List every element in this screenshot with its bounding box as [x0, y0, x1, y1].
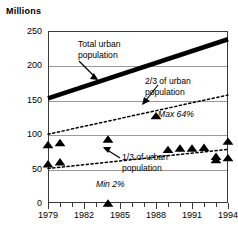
annotation-total-urban-population: Total urban population: [78, 39, 121, 60]
x-tick-1985: [120, 203, 121, 209]
x-tick-1981: [72, 203, 73, 207]
annotation-total-line2: population: [78, 50, 118, 60]
gridline-100: [49, 135, 227, 136]
x-tick-1980: [60, 203, 61, 207]
x-tick-label-1991: 1991: [175, 210, 209, 220]
y-tick-label-0: 0: [12, 198, 42, 208]
y-tick-label-50: 50: [12, 164, 42, 174]
x-tick-1982: [84, 203, 85, 209]
x-tick-1984: [108, 203, 109, 207]
x-tick-1983: [96, 203, 97, 207]
x-tick-1992: [204, 203, 205, 207]
y-tick-label-200: 200: [12, 60, 42, 70]
y-axis-title: Millions: [6, 6, 41, 16]
x-tick-label-1988: 1988: [139, 210, 173, 220]
x-tick-label-1979: 1979: [31, 210, 65, 220]
y-tick-label-100: 100: [12, 129, 42, 139]
annotation-min-2-percent: Min 2%: [96, 179, 125, 190]
annotation-max-64-percent: Max 64%: [158, 109, 194, 120]
x-tick-1987: [144, 203, 145, 207]
x-tick-1993: [216, 203, 217, 207]
annotation-onethird-line2: population: [122, 163, 162, 173]
x-tick-1986: [132, 203, 133, 207]
x-tick-1989: [168, 203, 169, 207]
x-tick-1991: [192, 203, 193, 209]
x-tick-1979: [48, 203, 49, 209]
gridline-200: [49, 66, 227, 67]
plot-area: [48, 31, 228, 203]
annotation-onethird-line1: 1/3 of urban: [122, 152, 168, 162]
y-tick-label-250: 250: [12, 26, 42, 36]
y-tick-label-150: 150: [12, 95, 42, 105]
x-tick-1994: [228, 203, 229, 209]
annotation-two-thirds-urban-population: 2/3 of urban population: [145, 76, 191, 97]
x-tick-label-1985: 1985: [103, 210, 137, 220]
urban-population-chart: Millions 250 200 150 100 50 0 1979 1982 …: [0, 0, 238, 232]
x-tick-1988: [156, 203, 157, 209]
annotation-total-line1: Total urban: [78, 39, 121, 49]
annotation-twothirds-line2: population: [145, 87, 185, 97]
annotation-one-third-urban-population: 1/3 of urban population: [122, 152, 168, 173]
gridline-150: [49, 101, 227, 102]
x-tick-1990: [180, 203, 181, 207]
x-tick-label-1994: 1994: [211, 210, 238, 220]
x-tick-label-1982: 1982: [67, 210, 101, 220]
annotation-twothirds-line1: 2/3 of urban: [145, 76, 191, 86]
